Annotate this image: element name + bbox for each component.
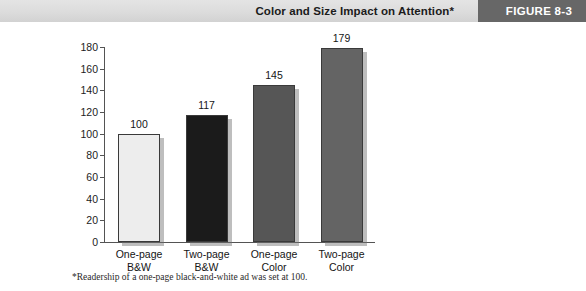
y-axis-tick-mark [100,199,105,200]
x-axis-category-label: Two-pageColor [318,248,364,274]
x-axis-category-label: One-pageColor [251,248,298,274]
bar [186,115,228,242]
figure-footnote: *Readership of a one-page black-and-whit… [72,272,307,282]
y-axis-tick-label: 100 [80,128,98,140]
y-axis-tick-mark [100,155,105,156]
y-axis-tick-label: 20 [86,214,98,226]
x-axis-category-label: Two-pageB&W [183,248,229,274]
y-axis-tick-mark [100,177,105,178]
y-axis-tick-label: 0 [92,236,98,248]
y-axis-tick-mark [100,112,105,113]
y-axis-tick-label: 180 [80,41,98,53]
bar-value-label: 117 [198,99,215,111]
bar [118,134,160,242]
x-axis-category-label-line1: Two-page [318,248,364,261]
y-axis-tick-mark [100,90,105,91]
figure-number-label: FIGURE 8-3 [478,0,586,22]
figure-header-band: Color and Size Impact on Attention* FIGU… [0,0,586,22]
y-axis-tick-label: 40 [86,193,98,205]
x-axis-category-label: One-pageB&W [116,248,163,274]
y-axis-tick-label: 120 [80,106,98,118]
plot-area: 020406080100120140160180 100117145179 On… [105,47,375,242]
figure-title: Color and Size Impact on Attention* [0,0,466,22]
y-axis-tick-label: 80 [86,149,98,161]
x-axis-category-label-line1: One-page [251,248,298,261]
x-axis-category-label-line2: Color [318,261,364,274]
bar-value-label: 145 [265,69,283,81]
bar-chart: 020406080100120140160180 100117145179 On… [0,22,586,291]
y-axis-tick-mark [100,242,105,243]
y-axis-tick-mark [100,47,105,48]
y-axis-tick-mark [100,220,105,221]
x-axis-category-label-line1: One-page [116,248,163,261]
x-axis-category-label-line1: Two-page [183,248,229,261]
bar-value-label: 100 [130,118,148,130]
bar [321,48,363,242]
y-axis-tick-mark [100,134,105,135]
y-axis-tick-label: 140 [80,84,98,96]
bar-value-label: 179 [333,32,351,44]
y-axis-tick-label: 60 [86,171,98,183]
bar [253,85,295,242]
y-axis-tick-mark [100,69,105,70]
y-axis-tick-label: 160 [80,63,98,75]
